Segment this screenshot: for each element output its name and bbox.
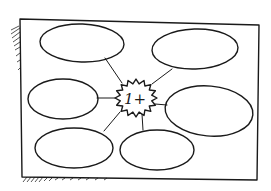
- node-top-left[interactable]: [39, 23, 124, 64]
- center-label: 1+: [124, 90, 146, 108]
- cluster-diagram: 1+: [0, 0, 271, 191]
- node-middle-right[interactable]: [163, 82, 255, 139]
- connector-bottom-center: [142, 114, 143, 130]
- node-top-right[interactable]: [151, 28, 238, 71]
- connector-top-left: [105, 58, 122, 83]
- connector-bottom-left: [104, 112, 120, 131]
- node-bottom-center[interactable]: [120, 130, 194, 170]
- paper-shadow-left: [11, 26, 20, 70]
- connector-top-right: [152, 69, 172, 84]
- node-middle-left[interactable]: [28, 79, 98, 119]
- node-bottom-left[interactable]: [35, 128, 113, 168]
